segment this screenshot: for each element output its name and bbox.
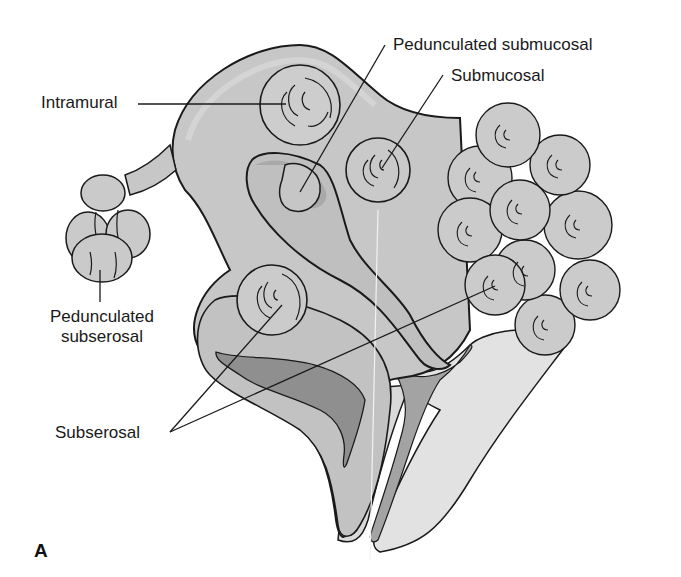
label-intramural: Intramural: [41, 93, 118, 113]
label-pedunculated-subserosal: Pedunculated subserosal: [37, 307, 167, 347]
label-submucosal: Submucosal: [451, 66, 545, 86]
fibroid-diagram: Intramural Pedunculated submucosal Submu…: [0, 0, 681, 577]
intramural-fibroid: [260, 65, 340, 145]
subserosal-fibroid-left: [237, 265, 307, 335]
uterus-illustration: [0, 0, 681, 577]
submucosal-fibroid: [346, 138, 410, 202]
label-pedunculated-subserosal-line1: Pedunculated: [37, 307, 167, 327]
panel-letter: A: [34, 540, 48, 562]
label-subserosal: Subserosal: [55, 423, 140, 443]
label-pedunculated-submucosal: Pedunculated submucosal: [393, 35, 592, 55]
pedunculated-subserosal-stalk: [125, 145, 176, 195]
label-pedunculated-subserosal-line2: subserosal: [37, 327, 167, 347]
